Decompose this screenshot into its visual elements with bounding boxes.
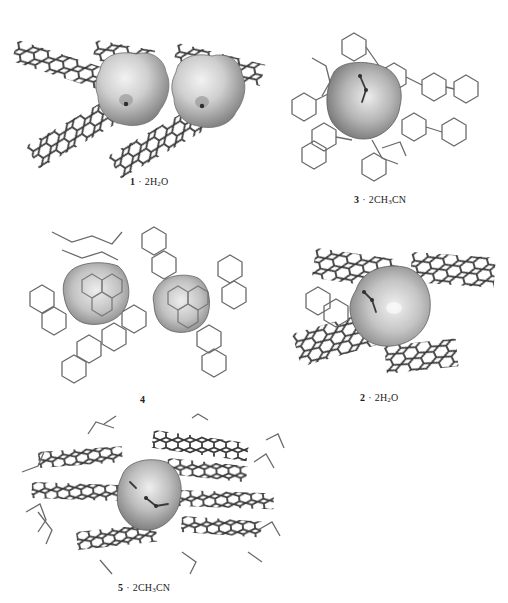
structure-panel-3 xyxy=(282,30,502,190)
void-surface xyxy=(96,53,169,126)
compound-number: 1 xyxy=(130,176,135,187)
crystal-structure-3-image xyxy=(282,30,502,190)
structure-panel-4 xyxy=(22,222,262,382)
caption-1: 1·2H2O xyxy=(130,176,168,188)
compound-number: 5 xyxy=(118,582,123,593)
void-surface xyxy=(117,460,181,531)
compound-number: 4 xyxy=(140,394,145,405)
compound-number: 2 xyxy=(360,392,365,403)
caption-5: 5·2CH3CN xyxy=(118,582,170,594)
crystal-structure-5-image xyxy=(18,412,290,574)
caption-3: 3·2CH3CN xyxy=(354,194,406,206)
void-surface xyxy=(172,55,245,128)
crystal-structure-4-image xyxy=(22,222,262,382)
structure-panel-5 xyxy=(18,412,290,574)
crystal-structure-2-image xyxy=(284,230,499,382)
crystal-structure-1-image xyxy=(18,28,278,158)
compound-number: 3 xyxy=(354,194,359,205)
void-surface xyxy=(327,62,401,139)
structure-panel-2 xyxy=(284,230,499,382)
caption-4: 4 xyxy=(140,394,145,405)
caption-2: 2·2H2O xyxy=(360,392,398,404)
structure-panel-1 xyxy=(18,28,278,158)
